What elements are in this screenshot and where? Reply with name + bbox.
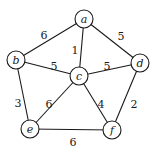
- edge-b-c: [16, 60, 79, 76]
- edge-weight-c-f: 4: [98, 98, 105, 111]
- edge-weight-a-b: 6: [41, 29, 48, 42]
- nodes: abcdef: [7, 10, 149, 139]
- edge-e-f: [30, 129, 112, 130]
- node-f: f: [103, 121, 121, 139]
- edge-weight-d-f: 2: [131, 98, 138, 111]
- node-c: c: [70, 67, 88, 85]
- node-b: b: [7, 51, 25, 69]
- node-label: b: [12, 54, 19, 67]
- edge-d-f: [112, 63, 140, 130]
- node-label: d: [136, 57, 143, 70]
- node-a: a: [75, 10, 93, 28]
- edge-weight-b-e: 3: [15, 97, 22, 110]
- edge-weight-a-d: 5: [118, 30, 125, 43]
- weighted-graph: 6155536426 abcdef: [0, 0, 159, 152]
- node-label: c: [76, 70, 82, 83]
- edge-weight-a-c: 1: [72, 44, 79, 57]
- edge-b-e: [16, 60, 30, 129]
- edge-weight-e-f: 6: [70, 136, 77, 149]
- edge-a-d: [84, 19, 140, 63]
- edge-weight-b-c: 5: [51, 60, 58, 73]
- node-label: e: [27, 123, 34, 136]
- node-d: d: [131, 54, 149, 72]
- node-e: e: [21, 120, 39, 138]
- edge-weight-c-e: 6: [46, 98, 53, 111]
- node-label: a: [81, 13, 88, 26]
- edge-weight-c-d: 5: [104, 60, 111, 73]
- edge-c-e: [30, 76, 79, 129]
